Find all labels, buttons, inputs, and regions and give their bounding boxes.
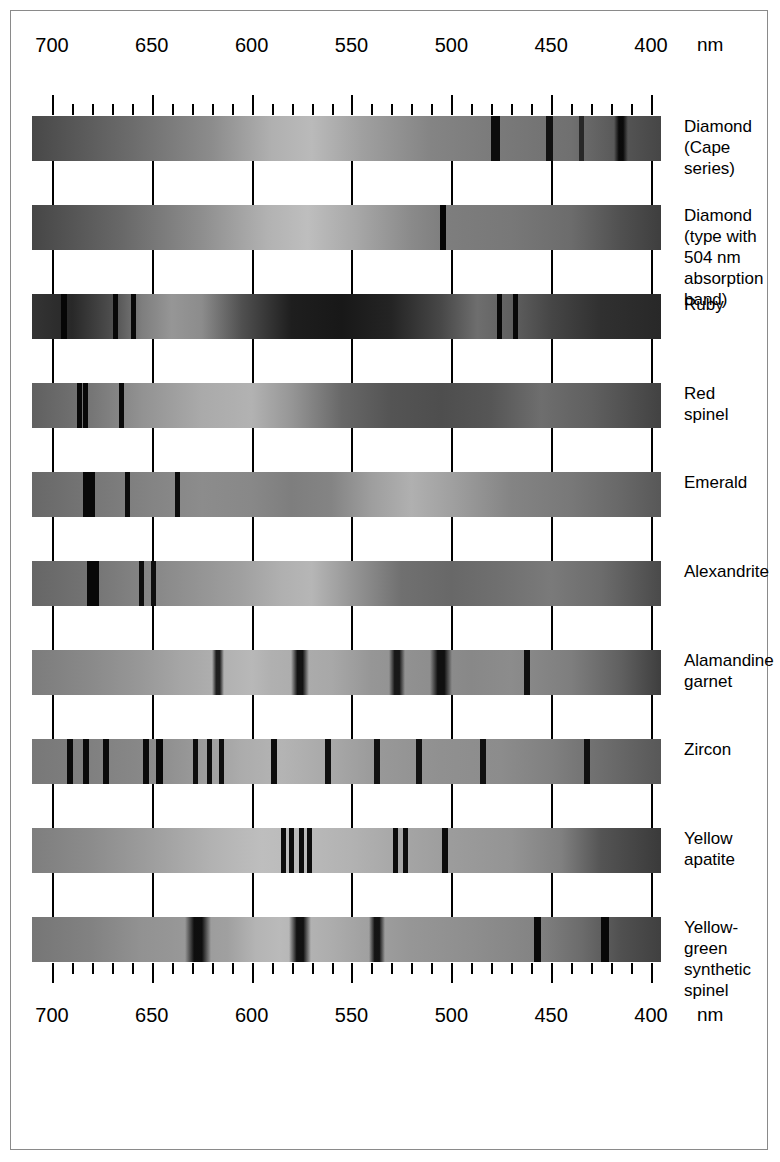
gridline-650 <box>152 250 154 294</box>
axis-unit-label: nm <box>697 1003 723 1027</box>
absorption-line-468 <box>513 294 518 339</box>
gridline-700 <box>52 339 54 383</box>
spectrum-label: Zircon <box>684 739 731 760</box>
axis-tick-label-400: 400 <box>634 1003 667 1027</box>
band-gradient <box>32 561 661 606</box>
minor-tick-560 <box>332 104 334 115</box>
gridline-500 <box>451 339 453 383</box>
spectrum-band <box>32 917 661 962</box>
gridline-550 <box>351 250 353 294</box>
gridline-450 <box>551 161 553 205</box>
absorption-line-589 <box>271 739 277 784</box>
spectrum-band <box>32 561 661 606</box>
minor-tick-680 <box>92 104 94 115</box>
band-gradient <box>32 116 661 161</box>
gridline-600 <box>252 695 254 739</box>
absorption-line-576 <box>289 917 311 962</box>
absorption-line-683 <box>83 383 88 428</box>
absorption-line-662 <box>125 472 130 517</box>
minor-tick-670 <box>112 963 114 974</box>
absorption-line-653 <box>143 739 149 784</box>
major-tick-500 <box>451 95 453 115</box>
minor-tick-410 <box>631 104 633 115</box>
minor-tick-610 <box>232 963 234 974</box>
major-tick-700 <box>52 963 54 983</box>
minor-tick-540 <box>371 104 373 115</box>
minor-tick-460 <box>531 963 533 974</box>
absorption-line-523 <box>403 828 408 873</box>
spectrum-label: Ruby <box>684 294 724 315</box>
gridline-550 <box>351 428 353 472</box>
absorption-line-435 <box>579 116 584 161</box>
minor-tick-640 <box>172 963 174 974</box>
gridline-400 <box>651 517 653 561</box>
spectrum-band <box>32 650 661 695</box>
major-tick-650 <box>152 963 154 983</box>
gridline-550 <box>351 784 353 828</box>
minor-tick-590 <box>272 963 274 974</box>
absorption-line-576 <box>291 650 309 695</box>
minor-tick-530 <box>391 963 393 974</box>
gridline-600 <box>252 517 254 561</box>
gridline-700 <box>52 873 54 917</box>
absorption-line-527 <box>389 650 405 695</box>
spectrum-band <box>32 294 661 339</box>
gridline-400 <box>651 606 653 650</box>
major-tick-400 <box>651 95 653 115</box>
absorption-line-537 <box>374 739 380 784</box>
gridline-700 <box>52 428 54 472</box>
gridline-450 <box>551 784 553 828</box>
minor-tick-410 <box>631 963 633 974</box>
axis-tick-label-650: 650 <box>135 1003 168 1027</box>
gridline-500 <box>451 517 453 561</box>
spectrum-row: Red spinel <box>11 383 767 428</box>
absorption-line-584 <box>281 828 286 873</box>
axis-unit-label: nm <box>697 33 723 57</box>
absorption-line-537 <box>369 917 385 962</box>
major-tick-550 <box>351 963 353 983</box>
major-tick-650 <box>152 95 154 115</box>
axis-tick-label-700: 700 <box>35 1003 68 1027</box>
gridline-500 <box>451 428 453 472</box>
gridline-550 <box>351 606 353 650</box>
spectrum-label: Yellow- green synthetic spinel <box>684 917 751 1001</box>
minor-tick-490 <box>471 963 473 974</box>
axis-tick-label-550: 550 <box>335 1003 368 1027</box>
spectrum-band <box>32 739 661 784</box>
gridline-650 <box>152 339 154 383</box>
absorption-line-476 <box>497 294 502 339</box>
absorption-line-659 <box>131 294 136 339</box>
axis-tick-label-700: 700 <box>35 33 68 57</box>
minor-tick-510 <box>431 963 433 974</box>
gridline-550 <box>351 873 353 917</box>
gridline-500 <box>451 250 453 294</box>
minor-tick-420 <box>611 104 613 115</box>
gridline-650 <box>152 695 154 739</box>
absorption-line-484 <box>480 739 486 784</box>
minor-tick-580 <box>292 963 294 974</box>
gridline-700 <box>52 250 54 294</box>
major-tick-550 <box>351 95 353 115</box>
absorption-line-423 <box>601 917 609 962</box>
minor-tick-660 <box>132 963 134 974</box>
absorption-line-627 <box>185 917 211 962</box>
minor-tick-440 <box>571 963 573 974</box>
minor-tick-510 <box>431 104 433 115</box>
absorption-line-673 <box>103 739 109 784</box>
absorption-line-694 <box>61 294 67 339</box>
gridline-500 <box>451 161 453 205</box>
band-gradient <box>32 383 661 428</box>
minor-tick-470 <box>511 963 513 974</box>
minor-tick-570 <box>312 104 314 115</box>
gridline-450 <box>551 606 553 650</box>
minor-tick-610 <box>232 104 234 115</box>
gridline-550 <box>351 695 353 739</box>
gridline-550 <box>351 339 353 383</box>
minor-tick-480 <box>491 963 493 974</box>
band-gradient <box>32 205 661 250</box>
minor-tick-430 <box>591 104 593 115</box>
spectrum-band <box>32 828 661 873</box>
absorption-line-680 <box>89 472 95 517</box>
major-tick-700 <box>52 95 54 115</box>
gridline-450 <box>551 873 553 917</box>
